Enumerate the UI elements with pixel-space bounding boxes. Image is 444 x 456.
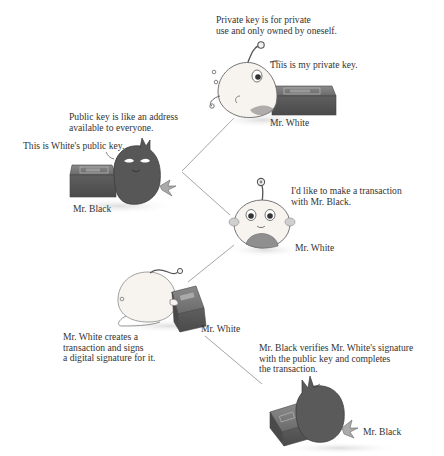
connector-private-to-public	[182, 118, 234, 171]
public-key-box-icon	[70, 165, 116, 197]
verify-character-label: Mr. Black	[363, 426, 401, 437]
verify-caption: Mr. Black verifies Mr. White's signature…	[259, 343, 413, 375]
transaction-intent-speech: I'd like to make a transaction with Mr. …	[291, 186, 402, 207]
connector-public-to-intent	[182, 172, 230, 215]
sign-caption: Mr. White creates a transaction and sign…	[63, 332, 155, 364]
private-key-caption: Private key is for private use and only …	[216, 15, 337, 36]
public-key-speech: This is White's public key.	[23, 141, 124, 152]
private-key-speech: This is my private key.	[270, 60, 358, 71]
black-creature-verifying	[270, 376, 400, 454]
private-key-box-icon	[270, 86, 336, 115]
sign-character-label: Mr. White	[201, 323, 240, 334]
white-creature-private-key	[210, 42, 336, 128]
public-key-character-label: Mr. Black	[73, 203, 111, 214]
transaction-intent-character-label: Mr. White	[295, 242, 334, 253]
diagram-illustration	[0, 0, 444, 456]
private-key-character-label: Mr. White	[270, 117, 309, 128]
connector-sign-to-verify	[205, 336, 262, 384]
public-key-caption: Public key is like an address available …	[69, 112, 178, 133]
